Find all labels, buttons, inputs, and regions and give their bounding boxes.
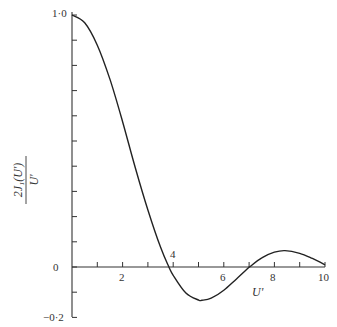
y-ticks <box>72 15 77 317</box>
x-tick-label-4: 4 <box>170 248 176 260</box>
airy-chart: 1·0 0 −0·2 2 4 6 8 10 U' 2J₁(U') U' <box>0 0 337 327</box>
x-tick-label-6: 6 <box>220 271 226 283</box>
x-tick-label-2: 2 <box>119 271 125 283</box>
data-curve <box>72 15 325 301</box>
x-ticks <box>97 262 325 267</box>
y-axis-label-denominator: U' <box>27 174 41 186</box>
x-tick-label-10: 10 <box>318 271 330 283</box>
x-tick-label-8: 8 <box>270 271 276 283</box>
y-tick-label-neg0-2: −0·2 <box>43 311 64 323</box>
x-axis-label: U' <box>252 285 264 299</box>
y-tick-label-1: 1·0 <box>52 7 67 19</box>
y-axis-label: 2J₁(U') U' <box>11 156 41 204</box>
y-axis-label-numerator: 2J₁(U') <box>11 163 25 198</box>
y-tick-label-0: 0 <box>53 261 59 273</box>
